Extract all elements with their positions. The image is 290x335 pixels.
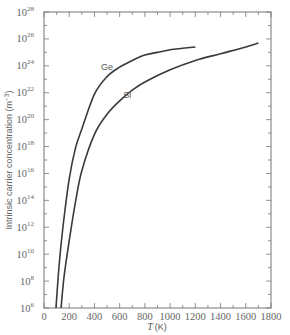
x-tick-label: 1600: [235, 311, 256, 322]
x-tick-label: 0: [41, 311, 46, 322]
label-si: Si: [123, 90, 131, 100]
y-tick-label: 1028: [17, 5, 35, 18]
y-tick-label: 1026: [17, 31, 35, 44]
axis-ticks: [44, 12, 271, 308]
y-tick-label: 1018: [17, 139, 35, 152]
y-tick-label: 106: [20, 301, 35, 314]
y-tick-label: 1010: [17, 247, 35, 260]
x-tick-label: 1200: [185, 311, 206, 322]
x-tick-label: 1800: [261, 311, 282, 322]
y-tick-label: 108: [20, 274, 35, 287]
y-axis-title: Intrinsic carrier concentration (m−3): [3, 91, 14, 230]
curve-si: [61, 43, 258, 308]
x-tick-labels: 020040060080010001200140016001800: [41, 311, 281, 322]
x-tick-label: 200: [61, 311, 77, 322]
label-ge: Ge: [101, 62, 113, 72]
curve-ge: [56, 47, 195, 308]
series-labels: GeSi: [101, 62, 131, 100]
y-tick-label: 1020: [17, 112, 35, 125]
y-tick-label: 1022: [17, 85, 35, 98]
y-tick-label: 1024: [17, 58, 35, 71]
x-axis-title: T(K): [147, 321, 167, 332]
x-tick-label: 1400: [210, 311, 231, 322]
y-tick-label: 1012: [17, 220, 35, 233]
data-curves: [56, 43, 258, 308]
x-tick-label: 1000: [160, 311, 181, 322]
y-tick-label: 1016: [17, 166, 35, 179]
y-tick-label: 1014: [17, 193, 35, 206]
x-tick-label: 400: [87, 311, 103, 322]
x-tick-label: 600: [112, 311, 128, 322]
intrinsic-carrier-chart: 1061081010101210141016101810201022102410…: [0, 0, 290, 335]
y-tick-labels: 1061081010101210141016101810201022102410…: [17, 5, 35, 314]
plot-frame: [44, 12, 271, 308]
